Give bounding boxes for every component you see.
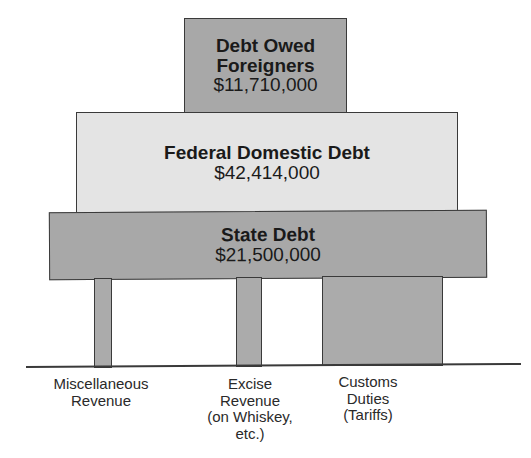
excise-revenue-label: Excise Revenue (on Whiskey, etc.)	[190, 376, 310, 442]
customs-duties-label-line1: Customs	[318, 374, 418, 391]
misc-revenue-pillar	[94, 278, 112, 368]
customs-duties-label-line3: (Tariffs)	[318, 407, 418, 424]
foreign-debt-title-line2: Foreigners	[216, 56, 314, 76]
foreign-debt-title-line1: Debt Owed	[216, 36, 315, 56]
foreign-debt-block: Debt Owed Foreigners $11,710,000	[184, 18, 347, 113]
federal-domestic-debt-block: Federal Domestic Debt $42,414,000	[76, 112, 458, 213]
excise-revenue-label-line4: etc.)	[190, 426, 310, 443]
excise-revenue-label-line3: (on Whiskey,	[190, 409, 310, 426]
foreign-debt-amount: $11,710,000	[213, 75, 317, 95]
misc-revenue-label-line2: Revenue	[36, 393, 166, 410]
excise-revenue-label-line2: Revenue	[190, 393, 310, 410]
customs-duties-label: Customs Duties (Tariffs)	[318, 374, 418, 424]
state-debt-block: State Debt $21,500,000	[49, 210, 487, 280]
misc-revenue-label-line1: Miscellaneous	[36, 376, 166, 393]
customs-duties-pillar	[322, 276, 443, 366]
state-debt-amount: $21,500,000	[215, 245, 321, 265]
state-debt-title: State Debt	[221, 225, 315, 245]
customs-duties-label-line2: Duties	[318, 391, 418, 408]
excise-revenue-pillar	[236, 277, 262, 367]
federal-domestic-debt-amount: $42,414,000	[214, 163, 320, 183]
excise-revenue-label-line1: Excise	[190, 376, 310, 393]
federal-domestic-debt-title: Federal Domestic Debt	[164, 143, 370, 163]
misc-revenue-label: Miscellaneous Revenue	[36, 376, 166, 409]
